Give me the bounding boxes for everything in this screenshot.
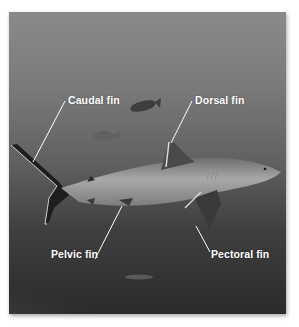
dorsal-leader-line <box>171 101 192 143</box>
caudal-fin-shape <box>11 144 69 224</box>
dorsal-fin-label: Dorsal fin <box>195 94 244 106</box>
shark-photo-frame <box>9 12 286 314</box>
pectoral-leader-line <box>196 226 210 252</box>
pelvic-fin-label: Pelvic fin <box>51 248 98 260</box>
fish-2 <box>94 131 114 141</box>
pelvic-leader-line <box>95 206 122 259</box>
caudal-leader-line <box>33 101 65 162</box>
fish-1 <box>129 98 157 114</box>
caudal-fin-label: Caudal fin <box>68 94 120 106</box>
small-shark <box>125 275 153 280</box>
shark-illustration <box>9 12 286 314</box>
pectoral-fin-label: Pectoral fin <box>211 248 269 260</box>
reef <box>9 252 139 314</box>
